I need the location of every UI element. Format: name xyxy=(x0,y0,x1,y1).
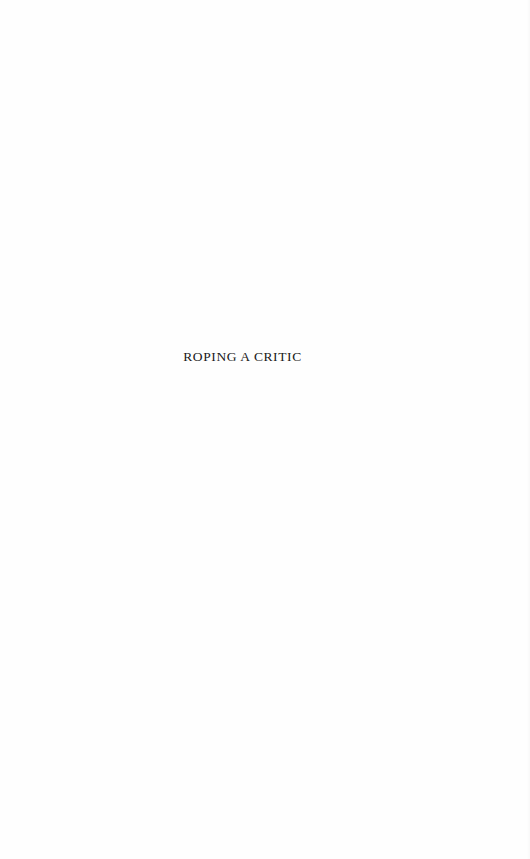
book-page: ROPING A CRITIC xyxy=(0,0,530,859)
half-title-heading: ROPING A CRITIC xyxy=(0,349,485,365)
